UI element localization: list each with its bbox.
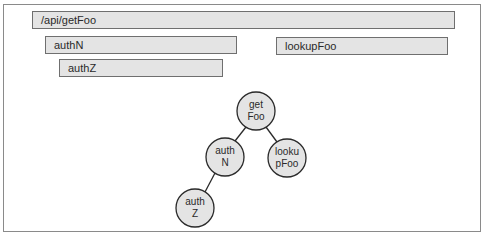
edge-authn-authz <box>205 173 215 192</box>
node-label-line2: Z <box>192 208 198 219</box>
call-tree: get Foo auth N looku pFoo auth Z <box>0 0 487 238</box>
edge-getfoo-lookupfoo <box>266 127 277 142</box>
tree-node-lookupfoo: looku pFoo <box>268 139 306 177</box>
node-label-line1: get <box>249 99 263 110</box>
edge-getfoo-authn <box>235 127 246 141</box>
node-label-line2: pFoo <box>276 158 299 169</box>
tree-node-authz: auth Z <box>176 189 214 227</box>
node-label-line1: auth <box>215 145 234 156</box>
node-label-line1: looku <box>275 146 299 157</box>
node-label-line2: Foo <box>247 111 265 122</box>
node-label-line2: N <box>221 157 228 168</box>
tree-node-authn: auth N <box>206 138 244 176</box>
tree-node-getfoo: get Foo <box>237 92 275 130</box>
node-label-line1: auth <box>185 196 204 207</box>
